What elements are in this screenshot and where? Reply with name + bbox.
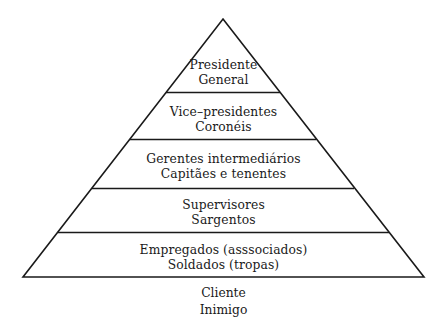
tier-0-line-1: Presidente bbox=[0, 58, 447, 73]
pyramid-tier-presidente-general: Presidente General bbox=[0, 58, 447, 87]
caption-line-2: Inimigo bbox=[0, 302, 447, 319]
tier-4-line-2: Soldados (tropas) bbox=[0, 258, 447, 273]
pyramid-diagram: Presidente General Vice–presidentes Coro… bbox=[0, 0, 447, 326]
tier-2-line-2: Capitães e tenentes bbox=[0, 167, 447, 182]
pyramid-base-caption: Cliente Inimigo bbox=[0, 285, 447, 318]
tier-2-line-1: Gerentes intermediários bbox=[0, 152, 447, 167]
tier-3-line-1: Supervisores bbox=[0, 198, 447, 213]
pyramid-tier-empregados-soldados: Empregados (asssociados) Soldados (tropa… bbox=[0, 243, 447, 272]
tier-1-line-1: Vice–presidentes bbox=[0, 105, 447, 120]
tier-1-line-2: Coronéis bbox=[0, 120, 447, 135]
tier-0-line-2: General bbox=[0, 73, 447, 88]
tier-4-line-1: Empregados (asssociados) bbox=[0, 243, 447, 258]
tier-3-line-2: Sargentos bbox=[0, 213, 447, 228]
pyramid-tier-supervisores-sargentos: Supervisores Sargentos bbox=[0, 198, 447, 227]
pyramid-tier-vice-presidentes-coroneis: Vice–presidentes Coronéis bbox=[0, 105, 447, 134]
pyramid-tier-gerentes-capitaes: Gerentes intermediários Capitães e tenen… bbox=[0, 152, 447, 181]
caption-line-1: Cliente bbox=[0, 285, 447, 302]
